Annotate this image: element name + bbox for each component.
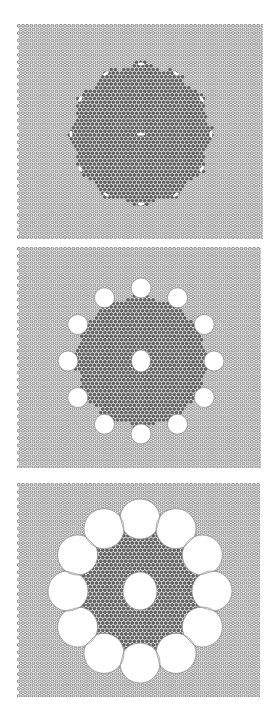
ring-void: [120, 643, 160, 683]
ring-void: [68, 388, 88, 408]
ring-void: [182, 535, 222, 575]
lattice-svg: [17, 483, 260, 697]
lattice-svg: [17, 24, 263, 239]
ring-void: [138, 203, 144, 206]
ring-void: [131, 278, 151, 298]
ring-void: [131, 424, 151, 444]
center-void: [123, 572, 157, 610]
lattice: [17, 24, 263, 239]
ring-void: [95, 288, 115, 308]
ring-void: [68, 315, 88, 335]
panel-3: [17, 483, 260, 697]
ring-void: [138, 63, 144, 66]
panel-1: [17, 24, 263, 239]
ring-void: [204, 351, 224, 371]
ring-void: [120, 499, 160, 539]
center-void: [132, 350, 151, 372]
ring-void: [58, 351, 78, 371]
ring-void: [156, 633, 196, 673]
ring-void: [95, 414, 115, 434]
ring-void: [58, 607, 98, 647]
ring-void: [70, 131, 73, 137]
lattice-svg: [17, 247, 261, 468]
ring-void: [84, 509, 124, 549]
ring-void: [194, 388, 214, 408]
ring-void: [194, 315, 214, 335]
ring-void: [168, 414, 188, 434]
ring-void: [192, 571, 232, 611]
panel-2: [17, 247, 261, 468]
ring-void: [168, 288, 188, 308]
ring-void: [210, 131, 213, 137]
ring-void: [48, 571, 88, 611]
center-void: [137, 132, 145, 135]
